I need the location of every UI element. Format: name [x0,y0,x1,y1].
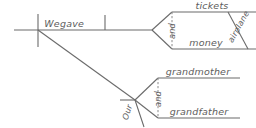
word-indirect-object-conjunction: and [153,90,163,107]
word-direct-object-1: tickets [195,0,228,11]
word-verb: gave [60,18,84,29]
word-subject: We [44,18,60,29]
diagram-canvas: We gave tickets money and airplane grand… [0,0,256,128]
word-indirect-object-1: grandmother [166,66,231,77]
word-indirect-object-preposition: Our [120,103,135,121]
indirect-object-slant [38,30,135,100]
word-direct-object-conjunction: and [167,22,177,39]
word-indirect-object-2: grandfather [170,106,230,117]
word-direct-object-2: money [189,37,223,48]
sentence-diagram: We gave tickets money and airplane grand… [0,0,256,128]
